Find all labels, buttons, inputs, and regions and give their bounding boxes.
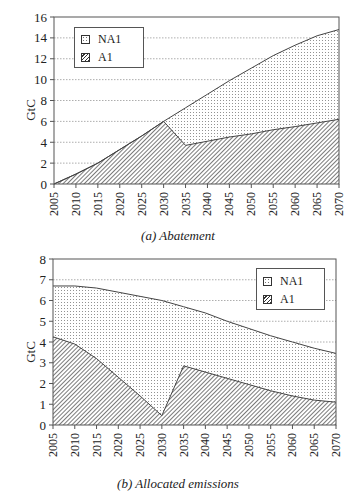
y-axis-label: GtC (23, 341, 39, 363)
svg-text:2060: 2060 (288, 192, 302, 216)
svg-text:2050: 2050 (242, 433, 256, 457)
svg-text:5: 5 (40, 314, 47, 329)
svg-text:2045: 2045 (222, 192, 236, 216)
svg-text:2020: 2020 (113, 192, 127, 216)
svg-text:2005: 2005 (46, 433, 60, 457)
svg-text:2040: 2040 (200, 192, 214, 216)
svg-text:2055: 2055 (266, 192, 280, 216)
svg-text:1: 1 (40, 397, 47, 412)
hatch-swatch-icon (81, 53, 90, 62)
svg-text:2005: 2005 (47, 192, 61, 216)
svg-text:2030: 2030 (155, 433, 169, 457)
dots-swatch-icon (263, 277, 272, 286)
svg-text:2065: 2065 (310, 192, 324, 216)
svg-text:2010: 2010 (68, 433, 82, 457)
svg-text:2: 2 (41, 156, 48, 171)
legend-item-na1: NA1 (257, 272, 324, 290)
svg-text:3: 3 (40, 355, 47, 370)
svg-text:4: 4 (40, 335, 47, 350)
hatch-swatch-icon (263, 295, 272, 304)
svg-text:2025: 2025 (135, 192, 149, 216)
legend-label: NA1 (98, 32, 121, 47)
legend-label: NA1 (280, 274, 303, 289)
svg-text:2065: 2065 (307, 433, 321, 457)
chart-caption: (b) Allocated emissions (0, 476, 356, 492)
svg-text:2015: 2015 (90, 433, 104, 457)
svg-text:2025: 2025 (133, 433, 147, 457)
svg-text:6: 6 (40, 293, 47, 308)
svg-text:2035: 2035 (177, 433, 191, 457)
svg-text:8: 8 (40, 252, 47, 267)
svg-text:2060: 2060 (285, 433, 299, 457)
svg-text:2: 2 (40, 376, 47, 391)
legend-item-a1: A1 (257, 290, 324, 308)
svg-text:4: 4 (41, 135, 48, 150)
svg-text:2035: 2035 (179, 192, 193, 216)
svg-text:7: 7 (40, 272, 47, 287)
legend: NA1 A1 (74, 27, 144, 68)
svg-text:10: 10 (34, 72, 47, 87)
svg-text:2055: 2055 (264, 433, 278, 457)
svg-text:2020: 2020 (111, 433, 125, 457)
svg-text:2015: 2015 (91, 192, 105, 216)
legend-item-na1: NA1 (75, 30, 143, 48)
legend-item-a1: A1 (75, 48, 143, 66)
svg-text:0: 0 (40, 418, 47, 433)
svg-text:14: 14 (34, 30, 48, 45)
chart-caption: (a) Abatement (0, 228, 356, 244)
svg-text:2070: 2070 (329, 433, 343, 457)
abatement-chart: 0246810121416200520102015202020252030203… (0, 0, 356, 250)
svg-text:0: 0 (41, 177, 48, 192)
svg-text:2070: 2070 (332, 192, 346, 216)
legend-label: A1 (98, 50, 113, 65)
y-axis-label: GtC (23, 99, 39, 121)
svg-text:2050: 2050 (244, 192, 258, 216)
legend-label: A1 (280, 292, 295, 307)
svg-text:2040: 2040 (198, 433, 212, 457)
svg-text:6: 6 (41, 114, 48, 129)
dots-swatch-icon (81, 35, 90, 44)
svg-text:2030: 2030 (157, 192, 171, 216)
abatement-plot: 0246810121416200520102015202020252030203… (0, 0, 356, 250)
svg-text:2010: 2010 (69, 192, 83, 216)
svg-text:2045: 2045 (220, 433, 234, 457)
allocated-emissions-chart: 0123456782005201020152020202520302035204… (0, 250, 356, 503)
svg-text:8: 8 (41, 93, 48, 108)
svg-text:12: 12 (34, 51, 47, 66)
svg-text:16: 16 (34, 10, 48, 25)
legend: NA1 A1 (256, 268, 325, 310)
